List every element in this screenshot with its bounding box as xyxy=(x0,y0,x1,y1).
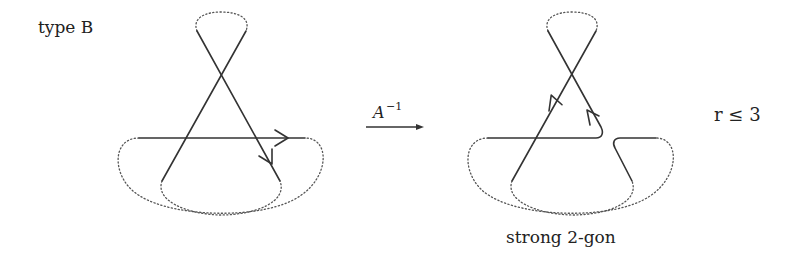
outer-dotted-loop-right xyxy=(468,138,673,213)
arrowhead-up-icon xyxy=(587,110,599,125)
move-label-exponent: −1 xyxy=(386,100,402,113)
condition-label: r ≤ 3 xyxy=(714,104,761,125)
move-arrow-head-icon xyxy=(416,124,424,130)
right-diagram xyxy=(468,12,673,215)
diagram-canvas: type B A −1 xyxy=(0,0,803,258)
strand-right-diagonal xyxy=(197,31,280,181)
strand-left-diagonal xyxy=(162,31,246,181)
move-arrow: A −1 xyxy=(366,100,424,130)
caption-label: strong 2-gon xyxy=(506,227,616,247)
type-label: type B xyxy=(38,17,93,37)
left-diagram xyxy=(118,12,323,215)
top-dotted-loop xyxy=(196,12,247,31)
top-dotted-loop-right xyxy=(547,12,597,31)
strand-smoothed-right xyxy=(614,138,656,181)
move-label-base: A xyxy=(371,103,385,122)
strand-left-diagonal-right xyxy=(512,31,596,181)
outer-dotted-loop xyxy=(118,138,323,213)
